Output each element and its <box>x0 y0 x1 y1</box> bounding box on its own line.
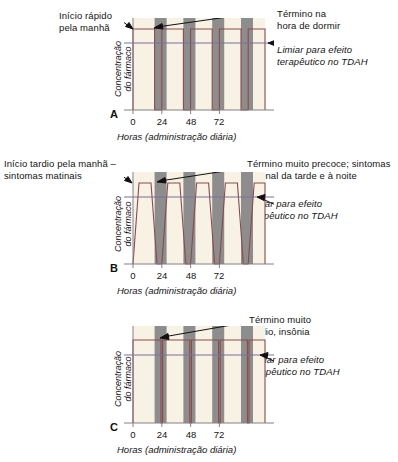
panel-a-y-label-line1: Concentração <box>113 30 123 108</box>
panel-b-tick-24: 24 <box>152 270 172 281</box>
panel-b-plot <box>124 172 274 272</box>
panel-c-y-axis-label: Concentração do fármaco <box>113 338 133 420</box>
panel-a-bands <box>133 18 265 110</box>
panel-c-x-axis-title: Horas (administração diária) <box>117 444 236 455</box>
panel-a-threshold-line1: Limiar para efeito <box>277 44 352 55</box>
panel-a-tick-0: 0 <box>123 116 143 127</box>
panel-c-tick-24: 24 <box>152 429 172 440</box>
figure-adhd-stimulant-profiles: Início rápido pela manhã Término na hora… <box>0 0 398 462</box>
panel-b-x-ticks <box>133 264 219 268</box>
panel-c: Término muito tardio, insônia Limiar par… <box>0 302 398 462</box>
panel-a-left-callout: Início rápido pela manhã <box>59 10 112 33</box>
panel-c-letter: C <box>110 421 118 433</box>
panel-a-threshold-line2: terapêutico no TDAH <box>277 56 368 67</box>
panel-c-tick-72: 72 <box>209 429 229 440</box>
panel-b-tick-0: 0 <box>123 270 143 281</box>
panel-a-tick-24: 24 <box>152 116 172 127</box>
panel-c-tick-48: 48 <box>181 429 201 440</box>
panel-b-y-label-line2: do fármaco <box>123 184 133 264</box>
panel-b-y-axis-label: Concentração do fármaco <box>113 184 133 264</box>
panel-a: Início rápido pela manhã Término na hora… <box>0 0 398 152</box>
panel-a-y-axis-label: Concentração do fármaco <box>113 30 133 108</box>
panel-c-plot <box>124 326 274 431</box>
panel-b-y-label-line1: Concentração <box>113 184 123 264</box>
panel-a-tick-72: 72 <box>209 116 229 127</box>
panel-b-bands <box>133 172 265 264</box>
panel-a-y-label-line2: do fármaco <box>123 30 133 108</box>
panel-a-right-callout: Término na hora de dormir <box>277 8 340 31</box>
panel-c-y-label-line1: Concentração <box>113 338 123 420</box>
panel-b-tick-72: 72 <box>209 270 229 281</box>
panel-a-letter: A <box>110 108 118 120</box>
panel-c-x-ticks <box>133 423 219 427</box>
panel-c-y-label-line2: do fármaco <box>123 338 133 420</box>
panel-a-tick-48: 48 <box>181 116 201 127</box>
panel-b-left-callout: Início tardio pela manhã – sintomas mati… <box>4 158 116 181</box>
panel-c-tick-0: 0 <box>123 429 143 440</box>
panel-a-x-axis-title: Horas (administração diária) <box>117 131 236 142</box>
panel-a-plot <box>124 18 274 118</box>
panel-b-x-axis-title: Horas (administração diária) <box>117 285 236 296</box>
panel-a-x-ticks <box>133 110 219 114</box>
panel-b-tick-48: 48 <box>181 270 201 281</box>
panel-b: Início tardio pela manhã – sintomas mati… <box>0 152 398 302</box>
panel-a-threshold-callout: Limiar para efeitoterapêutico no TDAH <box>277 44 368 67</box>
